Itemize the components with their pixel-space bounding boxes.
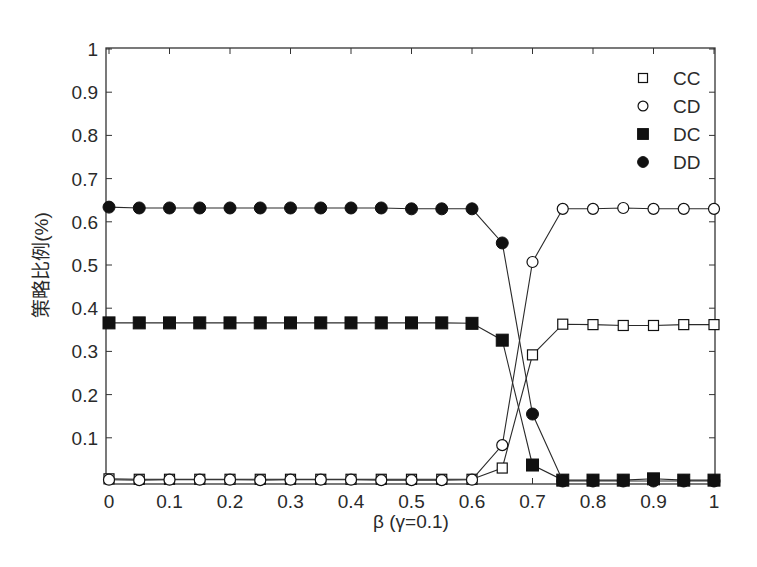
data-point — [648, 203, 659, 214]
data-point — [496, 334, 508, 346]
x-tick-label: 0.6 — [459, 491, 485, 512]
data-point — [224, 202, 236, 214]
plot-border — [106, 48, 715, 484]
legend-label: CD — [673, 96, 700, 117]
data-point — [648, 475, 660, 487]
data-point — [557, 203, 568, 214]
data-point — [406, 203, 418, 215]
series-layer — [103, 201, 720, 487]
data-point — [709, 320, 719, 330]
data-point — [678, 475, 690, 487]
data-point — [133, 202, 145, 214]
y-tick-label: 0.3 — [72, 341, 98, 362]
data-point — [679, 320, 689, 330]
data-point — [678, 203, 689, 214]
data-point — [497, 440, 508, 451]
data-point — [164, 317, 176, 329]
data-point — [255, 475, 266, 486]
data-point — [254, 317, 266, 329]
data-point — [436, 475, 447, 486]
x-tick-label: 0.3 — [277, 491, 303, 512]
series-cd — [104, 202, 720, 485]
series-dd — [103, 201, 720, 487]
data-point — [376, 475, 387, 486]
x-tick-label: 0.1 — [156, 491, 182, 512]
data-point — [467, 474, 478, 485]
data-point — [649, 320, 659, 330]
y-tick-label: 0.4 — [72, 298, 99, 319]
data-point — [285, 474, 296, 485]
data-point — [618, 202, 629, 213]
data-point — [496, 237, 508, 249]
circle-open-icon — [638, 101, 648, 111]
series-dc — [103, 317, 720, 486]
data-point — [103, 201, 115, 213]
square-open-icon — [639, 74, 648, 83]
x-axis-label: β (γ=0.1) — [373, 511, 449, 532]
y-tick-label: 0.2 — [72, 385, 98, 406]
x-tick-label: 0.2 — [217, 491, 243, 512]
circle-filled-icon — [638, 157, 649, 168]
data-point — [709, 203, 720, 214]
data-point — [134, 475, 145, 486]
data-point — [346, 474, 357, 485]
x-tick-label: 0.4 — [338, 491, 365, 512]
legend-label: DC — [673, 124, 700, 145]
plot-frame — [106, 48, 715, 484]
x-tick-label: 0.8 — [580, 491, 606, 512]
legend-item-cc: CC — [639, 68, 701, 89]
data-point — [315, 317, 327, 329]
data-point — [527, 459, 539, 471]
data-point — [194, 202, 206, 214]
data-point — [497, 463, 507, 473]
y-tick-label: 1 — [87, 39, 98, 60]
x-tick-label: 0.9 — [640, 491, 666, 512]
x-tick-label: 0 — [104, 491, 115, 512]
square-filled-icon — [638, 129, 649, 140]
data-point — [315, 202, 327, 214]
data-point — [406, 475, 417, 486]
legend: CCCDDCDD — [638, 68, 701, 173]
y-tick-label: 0.9 — [72, 82, 98, 103]
data-point — [436, 317, 448, 329]
data-point — [527, 256, 538, 267]
data-point — [617, 475, 629, 487]
y-tick-label: 0.5 — [72, 255, 98, 276]
x-tick-label: 0.7 — [519, 491, 545, 512]
data-point — [254, 202, 266, 214]
data-point — [436, 203, 448, 215]
data-point — [618, 320, 628, 330]
data-point — [133, 317, 145, 329]
data-point — [345, 202, 357, 214]
data-point — [164, 474, 175, 485]
data-point — [225, 474, 236, 485]
data-point — [103, 317, 115, 329]
y-tick-label: 0.1 — [72, 428, 98, 449]
data-point — [194, 317, 206, 329]
y-tick-label: 0.6 — [72, 212, 98, 233]
data-point — [406, 317, 418, 329]
data-point — [587, 475, 599, 487]
legend-label: DD — [673, 152, 700, 173]
series-cc — [104, 319, 719, 484]
x-axis-ticks: 00.10.20.30.40.50.60.70.80.91 — [104, 48, 720, 512]
legend-item-cd: CD — [638, 96, 700, 117]
y-tick-label: 0.7 — [72, 169, 98, 190]
data-point — [466, 317, 478, 329]
data-point — [375, 317, 387, 329]
legend-label: CC — [673, 68, 700, 89]
data-point — [375, 202, 387, 214]
x-tick-label: 1 — [709, 491, 720, 512]
x-tick-label: 0.5 — [398, 491, 424, 512]
data-point — [285, 317, 297, 329]
legend-item-dd: DD — [638, 152, 701, 173]
data-point — [558, 319, 568, 329]
data-point — [527, 408, 539, 420]
y-axis-label: 策略比例(%) — [31, 212, 52, 318]
data-point — [224, 317, 236, 329]
legend-item-dc: DC — [638, 124, 701, 145]
data-point — [708, 475, 720, 487]
data-point — [588, 320, 598, 330]
data-point — [164, 202, 176, 214]
y-tick-label: 0.8 — [72, 125, 98, 146]
